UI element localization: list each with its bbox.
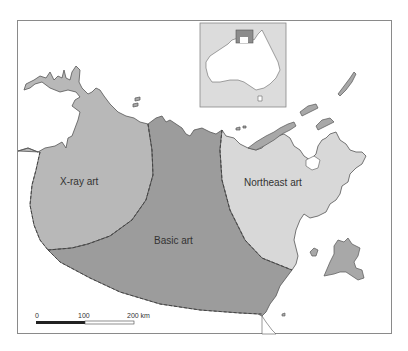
small-island-south bbox=[282, 313, 285, 316]
label-x-ray-art: X-ray art bbox=[60, 176, 98, 187]
scale-label-0: 0 bbox=[35, 312, 39, 319]
south-coast bbox=[262, 316, 276, 334]
scale-bar bbox=[36, 321, 134, 324]
label-basic-art: Basic art bbox=[154, 235, 193, 246]
scale-label-100: 100 bbox=[78, 312, 90, 319]
inset-map-australia bbox=[200, 23, 286, 107]
label-northeast-art: Northeast art bbox=[244, 177, 302, 188]
scale-label-200km: 200 km bbox=[127, 312, 150, 319]
